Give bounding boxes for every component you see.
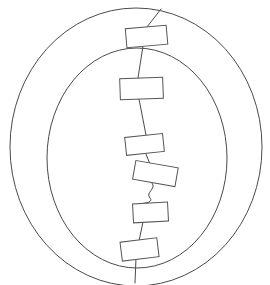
node-rect-2[interactable]: [120, 77, 164, 99]
connector-2-to-3: [139, 99, 146, 135]
node-rect-3[interactable]: [125, 134, 165, 156]
node-rect-1[interactable]: [125, 25, 167, 48]
node-rect-6[interactable]: [120, 238, 159, 261]
diagram-canvas: [0, 0, 270, 285]
node-rect-4[interactable]: [133, 160, 179, 186]
connector-outer-ring-top-to-1: [147, 9, 161, 27]
connector-5-to-6: [139, 222, 143, 241]
connector-1-to-2: [138, 46, 143, 78]
connector-4-to-5-wavy: [140, 183, 153, 204]
connector-6-to-outer-ring-bottom: [135, 258, 136, 283]
node-rect-5[interactable]: [133, 202, 169, 223]
ring-node-diagram: [0, 0, 270, 285]
